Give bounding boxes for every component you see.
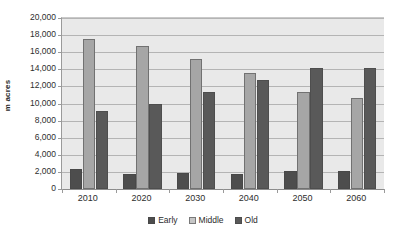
legend-entry-old[interactable]: Old <box>235 215 258 225</box>
y-axis-tick-label: 16,000 <box>30 46 56 56</box>
bar-group <box>330 18 384 189</box>
y-axis-tick-label: 12,000 <box>30 80 56 90</box>
y-axis-tick-label: 10,000 <box>30 98 56 108</box>
bar-early-2010 <box>70 169 83 189</box>
bar-group <box>62 18 116 189</box>
bar-early-2030 <box>177 173 190 189</box>
x-axis-tick <box>384 189 385 193</box>
x-axis-tick-label-2040: 2040 <box>239 193 259 203</box>
x-axis-tick-label-2030: 2030 <box>185 193 205 203</box>
bar-middle-2040 <box>244 73 257 189</box>
legend-swatch-icon <box>148 217 155 224</box>
y-axis-title-label: m acres <box>4 79 13 111</box>
legend-label: Early <box>158 215 177 225</box>
legend-swatch-icon <box>235 217 242 224</box>
bar-early-2040 <box>231 174 244 189</box>
bar-middle-2050 <box>297 92 310 189</box>
bar-chart: m acres 02,0004,0006,0008,00010,00012,00… <box>0 0 406 239</box>
y-axis-tick-label: 20,000 <box>30 12 56 22</box>
bar-old-2060 <box>364 68 377 189</box>
y-axis-tick-label: 8,000 <box>35 115 56 125</box>
legend-entry-middle[interactable]: Middle <box>189 215 224 225</box>
y-axis-tick-label: 4,000 <box>35 149 56 159</box>
y-axis-tick-label: 18,000 <box>30 29 56 39</box>
legend-entry-early[interactable]: Early <box>148 215 177 225</box>
bar-early-2050 <box>284 171 297 189</box>
bar-early-2060 <box>338 171 351 189</box>
bar-middle-2010 <box>83 39 96 189</box>
x-axis-tick-label-2050: 2050 <box>292 193 312 203</box>
legend-label: Middle <box>199 215 224 225</box>
bar-middle-2060 <box>351 98 364 189</box>
x-axis-tick-label-2010: 2010 <box>78 193 98 203</box>
bar-old-2020 <box>149 104 162 190</box>
bar-group <box>169 18 223 189</box>
legend-swatch-icon <box>189 217 196 224</box>
bar-old-2010 <box>96 111 109 189</box>
bar-old-2030 <box>203 92 216 189</box>
bar-middle-2030 <box>190 59 203 189</box>
bar-old-2050 <box>310 68 323 189</box>
legend-label: Old <box>245 215 258 225</box>
y-axis-tick-labels: 02,0004,0006,0008,00010,00012,00014,0001… <box>14 11 60 189</box>
bar-old-2040 <box>257 80 270 189</box>
bar-group <box>277 18 331 189</box>
y-axis-tick-label: 2,000 <box>35 166 56 176</box>
bar-group <box>116 18 170 189</box>
chart-legend: EarlyMiddleOld <box>0 215 406 225</box>
y-axis-tick-label: 14,000 <box>30 63 56 73</box>
x-axis-tick-labels: 201020202030204020502060 <box>61 193 383 209</box>
x-axis-tick-label-2020: 2020 <box>131 193 151 203</box>
bar-middle-2020 <box>136 46 149 189</box>
y-axis-tick-label: 6,000 <box>35 132 56 142</box>
bar-group <box>223 18 277 189</box>
plot-area <box>61 17 384 189</box>
y-axis-tick-label: 0 <box>51 183 56 193</box>
x-axis-tick-label-2060: 2060 <box>346 193 366 203</box>
bar-early-2020 <box>123 174 136 189</box>
